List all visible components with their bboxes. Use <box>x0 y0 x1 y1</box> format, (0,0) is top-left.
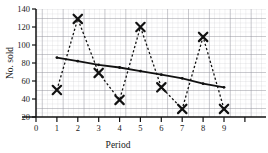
trend-point-marker <box>160 73 163 76</box>
y-tick-label: 20 <box>22 112 31 122</box>
x-tick-label: 5 <box>138 123 142 133</box>
y-tick-label: 80 <box>22 58 31 68</box>
x-tick-label: 3 <box>97 123 101 133</box>
x-tick-label: 1 <box>55 123 59 133</box>
x-tick-label: 0 <box>34 123 38 133</box>
trend-point-marker <box>202 82 205 85</box>
x-tick-label: 9 <box>222 123 226 133</box>
y-tick-label: 60 <box>22 76 31 86</box>
trend-point-marker <box>118 66 121 69</box>
y-tick-label: 40 <box>22 94 31 104</box>
x-tick-label: 7 <box>180 123 184 133</box>
x-tick-label: 4 <box>117 123 122 133</box>
y-tick-label: 100 <box>17 40 30 50</box>
major-gridlines <box>36 9 266 117</box>
trend-point-marker <box>181 77 184 80</box>
y-axis-label: No. sold <box>5 47 15 79</box>
y-tick-label: 120 <box>17 22 30 32</box>
chart-container: 20 40 60 80 100 120 140 0 1 2 3 4 5 6 7 … <box>0 0 268 153</box>
y-tick-label: 140 <box>17 4 30 14</box>
trend-point-marker <box>223 86 226 89</box>
trend-point-marker <box>97 63 100 66</box>
trend-point-marker <box>139 70 142 73</box>
x-tick-label: 6 <box>159 123 163 133</box>
x-tick-label: 8 <box>201 123 205 133</box>
no-sold-vs-period-chart: 20 40 60 80 100 120 140 0 1 2 3 4 5 6 7 … <box>0 0 268 153</box>
trend-point-marker <box>76 60 79 63</box>
trend-point-marker <box>55 56 58 59</box>
x-tick-label: 2 <box>76 123 80 133</box>
grid-layer <box>36 9 266 117</box>
x-axis-label: Period <box>106 140 131 150</box>
